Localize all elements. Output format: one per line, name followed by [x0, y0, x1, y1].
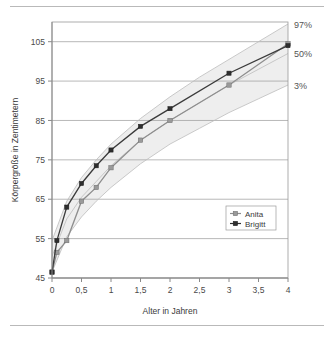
y-tick-label: 85 [36, 116, 46, 126]
y-tick-label: 55 [36, 234, 46, 244]
data-point-anita [65, 238, 69, 242]
y-tick-label: 65 [36, 194, 46, 204]
data-point-anita [79, 199, 83, 203]
x-axis-title: Alter in Jahren [143, 306, 198, 316]
data-point-brigitt [138, 124, 142, 128]
x-tick-label: 4 [286, 285, 291, 295]
data-point-brigitt [79, 181, 83, 185]
percentile-label-middle: 50% [294, 49, 312, 59]
x-tick-label: 0 [50, 285, 55, 295]
x-tick-label: 3 [227, 285, 232, 295]
y-tick-label: 75 [36, 155, 46, 165]
y-tick-label: 95 [36, 76, 46, 86]
data-point-brigitt [286, 44, 290, 48]
x-tick-label: 2 [168, 285, 173, 295]
x-tick-label: 2,5 [194, 285, 206, 295]
data-point-anita [168, 118, 172, 122]
data-point-brigitt [109, 148, 113, 152]
percentile-labels: 97%50%3% [294, 20, 312, 91]
legend-swatch-marker [233, 211, 237, 215]
x-tick-label: 3,5 [253, 285, 265, 295]
x-tick-label: 1,5 [135, 285, 147, 295]
chart-legend: AnitaBrigitt [226, 206, 276, 230]
data-point-anita [94, 185, 98, 189]
data-point-brigitt [65, 205, 69, 209]
x-tick-label: 0,5 [76, 285, 88, 295]
legend-label-brigitt: Brigitt [245, 220, 266, 229]
legend-label-anita: Anita [245, 210, 264, 219]
y-tick-label: 105 [31, 37, 45, 47]
y-tick-label: 45 [36, 273, 46, 283]
growth-chart: 455565758595105 00,511,522,533,54 97%50%… [0, 10, 334, 322]
percentile-label-bottom: 3% [294, 81, 307, 91]
top-divider-rule [10, 6, 324, 7]
data-point-brigitt [227, 71, 231, 75]
percentile-label-top: 97% [294, 20, 312, 30]
data-point-anita [138, 138, 142, 142]
bottom-divider-rule [10, 325, 324, 326]
data-point-brigitt [55, 238, 59, 242]
data-point-anita [109, 166, 113, 170]
y-axis-ticks: 455565758595105 [31, 22, 52, 283]
x-axis-ticks: 00,511,522,533,54 [50, 278, 291, 295]
data-point-brigitt [168, 107, 172, 111]
percentile-band-group [52, 24, 288, 272]
data-point-anita [227, 83, 231, 87]
data-point-brigitt [94, 164, 98, 168]
chart-canvas: 455565758595105 00,511,522,533,54 97%50%… [0, 10, 334, 322]
legend-swatch-marker [233, 221, 237, 225]
x-tick-label: 1 [109, 285, 114, 295]
y-axis-title: Körpergröße in Zentimetern [10, 98, 20, 203]
